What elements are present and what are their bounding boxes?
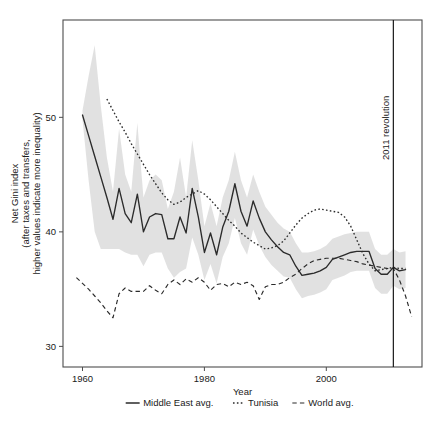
legend-label: World avg. — [308, 397, 353, 408]
confidence-band — [83, 45, 406, 298]
y-axis-title-line: higher values indicate more inequality) — [31, 112, 42, 274]
y-tick-label: 40 — [45, 226, 56, 237]
legend-label: Middle East avg. — [143, 397, 213, 408]
legend-label: Tunisia — [248, 397, 279, 408]
y-axis-title-line: (after taxes and transfers, — [20, 139, 31, 247]
x-axis-title: Year — [233, 386, 252, 397]
y-tick-label: 50 — [45, 112, 56, 123]
x-tick-label: 1980 — [194, 373, 215, 384]
y-axis-title-line: Net Gini index — [9, 163, 20, 223]
y-tick-label: 30 — [45, 341, 56, 352]
x-tick-label: 2000 — [316, 373, 337, 384]
x-tick-label: 1960 — [72, 373, 93, 384]
gini-index-chart: 2011 revolution304050196019802000YearNet… — [0, 0, 432, 421]
chart-canvas: 2011 revolution304050196019802000YearNet… — [0, 0, 432, 421]
revolution-annotation-label: 2011 revolution — [380, 96, 391, 160]
